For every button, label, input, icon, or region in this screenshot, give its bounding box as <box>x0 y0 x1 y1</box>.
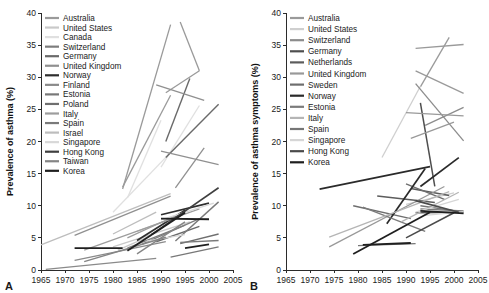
x-tick-label: 1980 <box>104 275 123 285</box>
chart-panel-b: 0510152025303540196519701975198019851990… <box>245 0 489 293</box>
legend-label: United Kingdom <box>63 62 121 71</box>
legend-label: Taiwan <box>63 157 89 166</box>
series-line <box>420 158 458 187</box>
legend-label: Hong Kong <box>308 147 349 156</box>
x-tick-label: 2000 <box>200 275 219 285</box>
series-line <box>171 247 219 257</box>
series-line <box>127 120 161 198</box>
legend-label: Germany <box>63 52 98 61</box>
legend-label: Switzerland <box>308 36 351 45</box>
y-tick-label: 10 <box>27 201 37 211</box>
series-line <box>425 107 463 125</box>
legend-label: Canada <box>63 33 92 42</box>
legend: AustraliaUnited StatesSwitzerlandGermany… <box>290 14 366 167</box>
x-tick-label: 1985 <box>128 275 147 285</box>
series-line <box>185 244 209 248</box>
series-line <box>420 103 434 187</box>
series-line <box>161 151 219 164</box>
legend-label: Australia <box>63 14 95 23</box>
legend: AustraliaUnited StatesCanadaSwitzerlandG… <box>45 14 121 176</box>
legend-label: Korea <box>308 158 330 167</box>
legend-label: United States <box>63 24 112 33</box>
y-tick-label: 15 <box>272 169 282 179</box>
x-tick-label: 2005 <box>469 275 488 285</box>
series-line <box>161 219 209 220</box>
legend-label: Norway <box>308 92 337 101</box>
legend-label: Netherlands <box>308 58 352 67</box>
panel-b-plot: 0510152025303540196519701975198019851990… <box>245 0 489 293</box>
y-tick-label: 5 <box>31 233 36 243</box>
series-line <box>166 79 190 142</box>
series-line <box>84 237 166 261</box>
x-tick-label: 1965 <box>32 275 51 285</box>
legend-label: United Kingdom <box>308 70 366 79</box>
series-line <box>387 168 425 223</box>
series-line <box>406 213 454 238</box>
y-tick-label: 30 <box>272 72 282 82</box>
series-line <box>180 240 218 242</box>
legend-label: Korea <box>63 167 85 176</box>
legend-label: Spain <box>308 125 329 134</box>
panel-a-letter: A <box>5 280 13 292</box>
x-tick-label: 1995 <box>176 275 195 285</box>
series-line <box>382 86 420 157</box>
series-line <box>411 122 454 138</box>
legend-label: Singapore <box>63 138 101 147</box>
series-line <box>406 113 464 116</box>
legend-label: Estonia <box>308 103 336 112</box>
panel-a-plot: 0510152025303540196519701975198019851990… <box>0 0 244 293</box>
y-tick-label: 0 <box>276 265 281 275</box>
x-tick-label: 1995 <box>421 275 440 285</box>
x-tick-label: 1980 <box>349 275 368 285</box>
y-tick-label: 30 <box>27 72 37 82</box>
legend-label: Israel <box>63 129 83 138</box>
series-line <box>46 258 156 269</box>
y-tick-label: 15 <box>27 169 37 179</box>
legend-label: Singapore <box>308 136 346 145</box>
series-line <box>156 85 204 100</box>
y-tick-label: 35 <box>27 40 37 50</box>
legend-label: Germany <box>308 47 343 56</box>
legend-label: Poland <box>63 100 89 109</box>
x-tick-label: 1965 <box>277 275 296 285</box>
legend-label: Hong Kong <box>63 148 104 157</box>
series-line <box>175 148 204 188</box>
y-tick-label: 0 <box>31 265 36 275</box>
y-tick-label: 10 <box>272 201 282 211</box>
legend-label: Norway <box>63 71 92 80</box>
y-tick-label: 40 <box>272 8 282 18</box>
y-tick-label: 40 <box>27 8 37 18</box>
chart-panel-a: 0510152025303540196519701975198019851990… <box>0 0 244 293</box>
y-axis-title: Prevalence of asthma symptoms (%) <box>250 63 260 220</box>
x-tick-label: 1990 <box>152 275 171 285</box>
y-tick-label: 25 <box>27 104 37 114</box>
series-line <box>113 212 156 234</box>
x-tick-label: 1975 <box>80 275 99 285</box>
legend-label: Italy <box>63 110 79 119</box>
y-tick-label: 35 <box>272 40 282 50</box>
asthma-prevalence-figure: 0510152025303540196519701975198019851990… <box>0 0 489 293</box>
legend-label: Finland <box>63 81 90 90</box>
legend-label: Italy <box>308 114 324 123</box>
y-axis-title: Prevalence of asthma (%) <box>5 87 15 196</box>
x-tick-label: 2005 <box>224 275 243 285</box>
panel-b-letter: B <box>250 280 258 292</box>
x-tick-label: 2000 <box>445 275 464 285</box>
series-line <box>180 22 199 71</box>
y-tick-label: 20 <box>272 137 282 147</box>
y-tick-label: 20 <box>27 137 37 147</box>
series-line <box>416 84 464 141</box>
y-tick-label: 25 <box>272 104 282 114</box>
legend-label: Australia <box>308 14 340 23</box>
x-tick-label: 1975 <box>325 275 344 285</box>
x-tick-label: 1990 <box>397 275 416 285</box>
y-tick-label: 5 <box>276 233 281 243</box>
legend-label: Sweden <box>308 81 338 90</box>
series-line <box>161 203 214 220</box>
legend-label: Estonia <box>63 90 91 99</box>
legend-label: Switzerland <box>63 43 106 52</box>
series-line <box>416 44 464 48</box>
series-line <box>161 106 199 168</box>
x-tick-label: 1970 <box>301 275 320 285</box>
series-line <box>166 104 219 157</box>
